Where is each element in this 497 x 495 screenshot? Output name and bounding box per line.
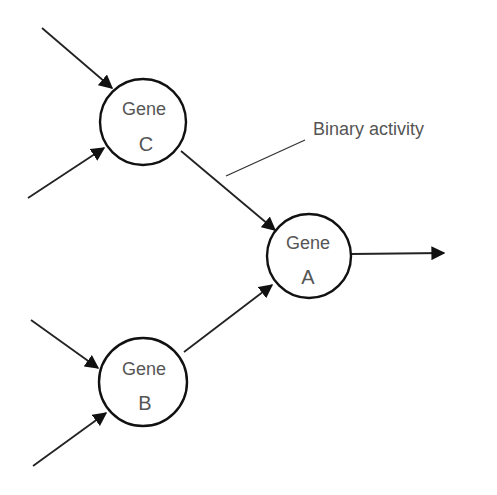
gene-b-label-line2: B: [138, 392, 151, 414]
annotation-leader-line: [226, 140, 305, 176]
gene-c-node: Gene C: [100, 79, 186, 165]
gene-a-label-line2: A: [301, 266, 315, 288]
edge-c-to-a: [181, 151, 275, 230]
binary-activity-label: Binary activity: [313, 119, 424, 139]
gene-b-node: Gene B: [99, 338, 187, 426]
gene-a-node: Gene A: [267, 214, 351, 298]
input-edge-c-1: [42, 28, 112, 88]
input-edge-c-2: [28, 148, 104, 198]
gene-network-diagram: Binary activity Gene C Gene A Gene B: [0, 0, 497, 495]
gene-c-label-line2: C: [139, 133, 153, 155]
input-edge-b-1: [31, 320, 98, 368]
gene-a-label-line1: Gene: [286, 233, 330, 253]
gene-b-label-line1: Gene: [122, 359, 166, 379]
output-edge-a: [351, 253, 444, 254]
gene-c-label-line1: Gene: [122, 99, 166, 119]
input-edge-b-2: [33, 413, 106, 466]
edge-b-to-a: [184, 285, 272, 352]
